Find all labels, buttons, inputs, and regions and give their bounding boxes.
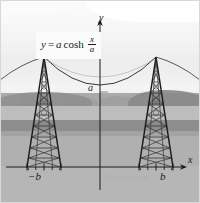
equation-y: y [41, 39, 46, 50]
transmission-tower-left [27, 57, 61, 170]
parameter-b-label: b [160, 171, 166, 182]
equation-fraction: x a [88, 35, 97, 55]
cable-span-right [156, 57, 200, 80]
y-axis-label: y [99, 13, 103, 23]
parameter-neg-b-label: −b [28, 171, 41, 182]
parameter-a-label: a [88, 83, 93, 93]
equation-label: y = a cosh x a [36, 32, 101, 59]
equation-a: a [56, 39, 62, 50]
equation-cosh: cosh [64, 39, 84, 50]
transmission-tower-right [139, 57, 173, 170]
cable-span-left [0, 57, 44, 80]
equation-equals: = [48, 39, 54, 50]
catenary-figure: Shutterstock y = a cosh x a y x a −b b [0, 0, 200, 203]
equation-fraction-denominator: a [88, 45, 97, 54]
x-axis-label: x [188, 155, 192, 165]
